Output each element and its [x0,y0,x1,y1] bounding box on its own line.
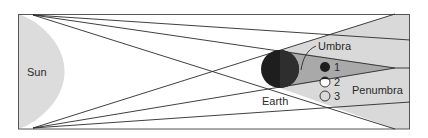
umbra-label: Umbra [318,40,352,52]
moon-label-2: 2 [334,76,340,88]
moon-position-1 [320,62,330,72]
ray-bottom-outer [33,102,410,128]
moon-label-3: 3 [334,90,340,102]
earth-label: Earth [262,95,288,107]
sun-label: Sun [27,66,47,78]
eclipse-diagram: Sun Earth Umbra Penumbra 1 2 3 [0,0,428,138]
moon-position-2 [320,77,330,87]
penumbra-label: Penumbra [352,84,404,96]
moon-label-1: 1 [334,61,340,73]
